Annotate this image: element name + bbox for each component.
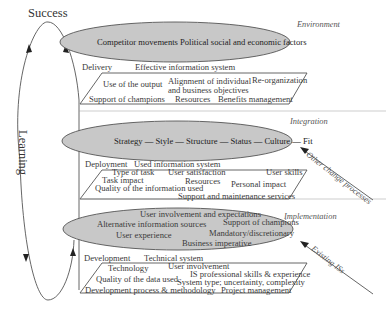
impl-box-item: Quality of the data used	[96, 275, 178, 284]
development-label: Development	[84, 254, 130, 263]
int-ellipse-item: Strategy — Style — Structure — Status — …	[114, 137, 313, 146]
learning-label: Learning	[18, 130, 27, 175]
effective-is-label: Effective information system	[135, 63, 235, 72]
impl-ellipse-item: Business imperative	[182, 239, 251, 248]
env-ellipse-item: Political social and economic factors	[180, 38, 306, 47]
impl-box-item: Project management	[221, 286, 291, 295]
success-label: Success	[28, 9, 68, 18]
env-box-item: Resources	[175, 95, 210, 104]
impl-box-item: Technology	[108, 264, 148, 273]
env-ellipse-item: Competitor movements	[97, 38, 178, 47]
impl-ellipse-item: Alternative information sources	[97, 220, 206, 229]
impl-box-item: Development process & methodology	[85, 286, 216, 295]
impl-ellipse-item: Support of champions	[223, 218, 299, 227]
env-box-item: Support of champions	[89, 95, 165, 104]
env-box-item: Re-organization	[252, 76, 307, 85]
arrow-up-left-icon	[26, 44, 32, 53]
integration-title: Integration	[290, 117, 328, 126]
arrow-down-left-icon	[23, 254, 29, 262]
int-box-item: Personal impact	[231, 180, 286, 189]
int-box-item: Support and maintenance services	[178, 192, 295, 201]
env-box-item: Use of the output	[103, 80, 162, 89]
environment-title: Environment	[297, 20, 340, 29]
int-box-item: User skills	[266, 168, 303, 177]
env-box-item: Benefits management	[218, 95, 293, 104]
impl-ellipse-item: Mandatory/discretionary	[209, 229, 294, 238]
impl-ellipse-item: User experience	[116, 231, 172, 240]
arrow-up-bottom-icon	[70, 248, 76, 256]
delivery-label: Delivery	[82, 63, 112, 72]
